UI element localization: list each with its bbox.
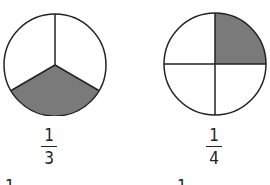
clipped-numeral-right: 1	[177, 178, 187, 185]
numerator: 1	[202, 127, 226, 144]
fraction-label-one-quarter: 1 4	[202, 127, 226, 167]
shaded-third	[11, 65, 99, 115]
pie-quarters	[162, 10, 268, 116]
clipped-numeral-left: 1	[5, 178, 15, 185]
fraction-bar	[41, 146, 57, 147]
fraction-bar	[206, 146, 222, 147]
denominator: 3	[37, 150, 61, 167]
pie-thirds	[2, 10, 108, 116]
fraction-label-one-third: 1 3	[37, 127, 61, 167]
denominator: 4	[202, 150, 226, 167]
numerator: 1	[37, 127, 61, 144]
